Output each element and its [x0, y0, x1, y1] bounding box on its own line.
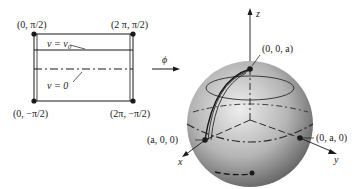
corner-dot-bottom-right: [130, 98, 135, 103]
z-axis: [248, 8, 253, 68]
corner-dot-top-left: [31, 31, 36, 36]
corner-dot-bottom-left: [31, 98, 36, 103]
mapping-arrow: [152, 67, 180, 72]
v0-label: v = v0: [47, 38, 72, 51]
point-north-pole: [247, 66, 253, 72]
label-y-point: (0, a, 0): [316, 132, 347, 144]
corner-label-top-left: (0, π/2): [17, 19, 47, 31]
sphere: [187, 61, 313, 187]
map-label-phi: ϕ: [162, 54, 167, 65]
label-x-point: (a, 0, 0): [147, 134, 178, 146]
label-north-pole: (0, 0, a): [262, 43, 293, 55]
diagram-canvas: (0, π/2) (2 π, π/2) (0, −π/2) (2π, −π/2)…: [0, 0, 363, 189]
corner-label-top-right: (2 π, π/2): [111, 19, 148, 31]
z-axis-label: z: [255, 8, 260, 19]
corner-label-bottom-left: (0, −π/2): [13, 108, 48, 120]
zero-label: v = 0: [47, 80, 68, 91]
y-axis-label: y: [333, 154, 339, 165]
corner-dot-top-right: [130, 31, 135, 36]
x-axis-label: x: [177, 156, 183, 167]
corner-label-bottom-right: (2π, −π/2): [110, 108, 150, 120]
